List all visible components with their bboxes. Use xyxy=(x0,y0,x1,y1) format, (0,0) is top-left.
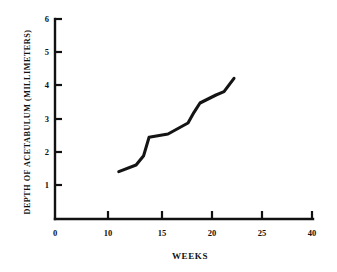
y-axis-title: DEPTH OF ACETABULUM (MILLIMETERS) xyxy=(23,29,32,214)
x-tick-label-10: 10 xyxy=(104,228,113,238)
y-tick-label-5: 5 xyxy=(45,47,49,57)
y-tick-label-6: 6 xyxy=(45,14,49,24)
y-tick-label-1: 1 xyxy=(45,180,49,190)
y-tick-label-4: 4 xyxy=(45,80,50,90)
y-tick-label-0: 0 xyxy=(53,228,57,238)
chart-figure: 6 5 4 3 2 1 0 10 15 20 25 40 WEEKS xyxy=(0,0,337,272)
y-tick-label-2: 2 xyxy=(45,147,49,157)
line-chart: 6 5 4 3 2 1 0 10 15 20 25 40 WEEKS xyxy=(0,0,337,272)
x-axis-tick-labels: 10 15 20 25 40 xyxy=(104,228,317,238)
x-tick-label-20: 20 xyxy=(208,228,217,238)
x-axis-title: WEEKS xyxy=(172,251,208,261)
x-tick-label-40: 40 xyxy=(308,228,317,238)
x-tick-label-25: 25 xyxy=(258,228,267,238)
x-tick-label-15: 15 xyxy=(158,228,167,238)
data-series-line xyxy=(119,78,234,171)
y-tick-label-3: 3 xyxy=(45,114,49,124)
